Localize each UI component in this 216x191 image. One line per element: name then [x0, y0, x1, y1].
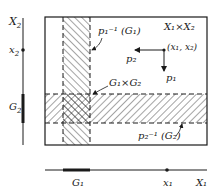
x2-point-label: x2	[9, 44, 20, 58]
preimage-g2-label: p₂⁻¹ (G₂)	[138, 130, 181, 141]
leader-preimage-g1	[92, 38, 102, 50]
p2-label: p₂	[126, 53, 136, 64]
g1-label: G₁	[72, 177, 84, 188]
point-label: (x₁, x₂)	[167, 42, 198, 52]
product-space-diagram: X2 x2 G2 X₁×X₂ (x₁, x₂) p₂ p₁ p₁⁻¹ (G₁) …	[0, 0, 216, 191]
x2-axis-label: X2	[8, 15, 22, 30]
preimage-g1-strip	[63, 17, 90, 145]
g1xg2-label: G₁×G₂	[109, 77, 141, 88]
product-space-label: X₁×X₂	[163, 21, 195, 32]
g1xg2-region	[63, 94, 90, 123]
x1-axis-label: X₁	[195, 177, 207, 188]
x1-point	[165, 168, 169, 172]
preimage-g1-label: p₁⁻¹ (G₁)	[98, 25, 141, 36]
x1-point-label: x₁	[163, 177, 173, 188]
g2-label: G2	[9, 101, 22, 115]
leader-g1xg2	[93, 86, 108, 94]
x2-point	[21, 48, 25, 52]
p1-label: p₁	[166, 72, 176, 83]
